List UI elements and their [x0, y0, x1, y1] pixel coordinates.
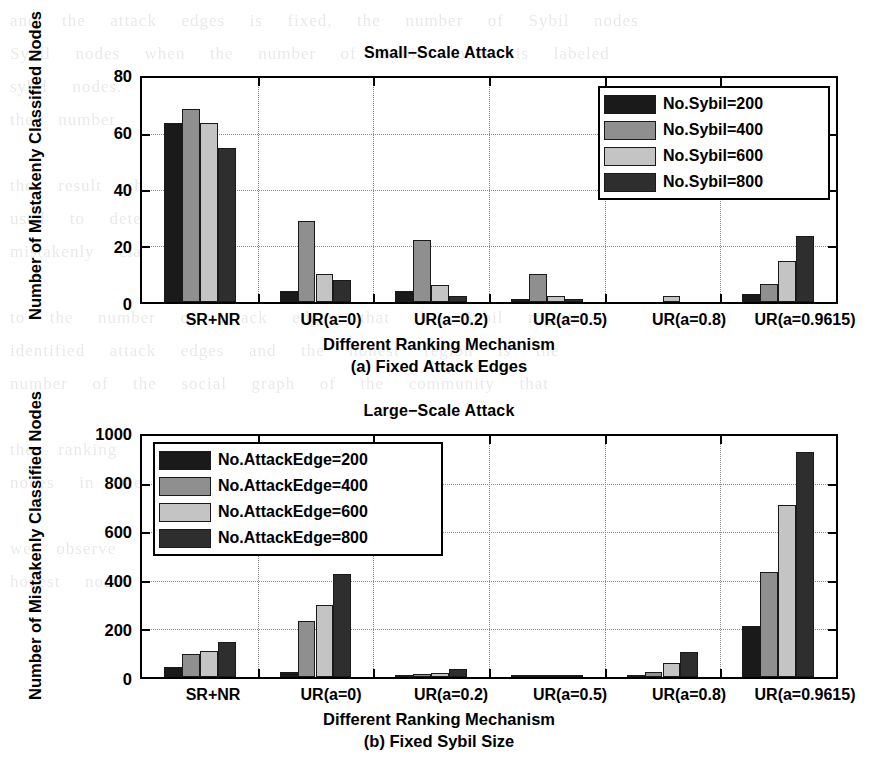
legend-a: No.Sybil=200 No.Sybil=400 No.Sybil=600 N…	[598, 86, 830, 200]
y-tick-mark-left-40	[142, 190, 150, 192]
legend-item-b-0[interactable]: No.AttackEdge=200	[159, 447, 436, 473]
x-tick-mark-top-4	[605, 436, 607, 444]
y-tick-label-b-200: 200	[54, 621, 132, 640]
x-tick-mark-bottom-1	[258, 669, 260, 677]
bar-plot-b-4-3	[680, 652, 698, 677]
bar-plot-b-2-2	[431, 673, 449, 677]
y-tick-mark-right-600	[828, 532, 836, 534]
bar-plot-a-3-3	[565, 299, 583, 302]
x-tick-mark-bottom-3	[489, 294, 491, 302]
bar-plot-b-5-0	[742, 626, 760, 677]
legend-label-a-3: No.Sybil=800	[663, 173, 763, 191]
x-tick-label-a-4: UR(a=0.8)	[652, 311, 726, 329]
y-tick-label-a-80: 80	[72, 67, 132, 86]
y-tick-mark-right-200	[828, 629, 836, 631]
bar-plot-a-1-0	[280, 291, 298, 302]
x-tick-label-b-3: UR(a=0.5)	[533, 686, 607, 704]
y-tick-label-b-800: 800	[54, 474, 132, 493]
y-tick-mark-right-20	[828, 246, 836, 248]
y-tick-label-b-400: 400	[54, 572, 132, 591]
legend-item-b-1[interactable]: No.AttackEdge=400	[159, 473, 436, 499]
x-tick-mark-bottom-1	[258, 294, 260, 302]
legend-label-b-2: No.AttackEdge=600	[218, 503, 368, 521]
bar-plot-a-2-1	[413, 240, 431, 302]
x-tick-label-b-1: UR(a=0)	[301, 686, 362, 704]
legend-item-b-3[interactable]: No.AttackEdge=800	[159, 525, 436, 551]
caption-a: (a) Fixed Attack Edges	[0, 357, 878, 376]
legend-swatch-b-3	[159, 529, 211, 548]
x-tick-mark-top-3	[489, 436, 491, 444]
chart-panel-large-scale-attack: Large−Scale Attack Number of Mistakenly …	[0, 380, 878, 761]
legend-swatch-a-2	[604, 147, 656, 166]
x-tick-mark-top-5	[720, 436, 722, 444]
x-tick-mark-bottom-4	[605, 294, 607, 302]
y-tick-mark-left-400	[142, 581, 150, 583]
bar-plot-b-0-3	[218, 642, 236, 677]
y-tick-label-a-60: 60	[72, 124, 132, 143]
y-tick-mark-left-60	[142, 134, 150, 136]
bar-plot-b-1-3	[333, 574, 351, 677]
legend-item-a-0[interactable]: No.Sybil=200	[604, 91, 823, 117]
legend-swatch-b-2	[159, 503, 211, 522]
legend-label-a-1: No.Sybil=400	[663, 121, 763, 139]
x-tick-mark-top-5	[720, 78, 722, 86]
y-tick-label-b-0: 0	[54, 670, 132, 689]
bar-plot-a-3-2	[547, 296, 565, 302]
bar-plot-a-0-2	[200, 123, 218, 302]
bar-plot-b-4-0	[627, 675, 645, 677]
bar-plot-a-5-3	[796, 236, 814, 302]
x-tick-mark-bottom-4	[605, 669, 607, 677]
x-tick-label-a-0: SR+NR	[186, 311, 241, 329]
x-tick-mark-top-4	[605, 78, 607, 86]
legend-item-a-3[interactable]: No.Sybil=800	[604, 169, 823, 195]
bar-plot-a-4-2	[663, 296, 681, 302]
legend-item-a-2[interactable]: No.Sybil=600	[604, 143, 823, 169]
bar-plot-b-1-2	[316, 605, 334, 677]
bar-plot-b-3-0	[511, 675, 529, 677]
legend-b: No.AttackEdge=200 No.AttackEdge=400 No.A…	[153, 442, 443, 556]
x-tick-label-b-2: UR(a=0.2)	[414, 686, 488, 704]
legend-item-b-2[interactable]: No.AttackEdge=600	[159, 499, 436, 525]
legend-swatch-a-0	[604, 95, 656, 114]
gridline-x-2	[373, 78, 374, 302]
caption-b: (b) Fixed Sybil Size	[0, 732, 878, 751]
chart-title-b: Large−Scale Attack	[0, 402, 878, 420]
gridline-x-4	[605, 436, 606, 677]
x-axis-label-b: Different Ranking Mechanism	[0, 710, 878, 729]
x-tick-label-b-0: SR+NR	[186, 686, 241, 704]
x-tick-mark-bottom-5	[720, 294, 722, 302]
legend-item-a-1[interactable]: No.Sybil=400	[604, 117, 823, 143]
gridline-x-3	[489, 78, 490, 302]
x-tick-mark-top-3	[489, 78, 491, 86]
bar-plot-a-0-0	[164, 123, 182, 302]
x-tick-label-a-2: UR(a=0.2)	[414, 311, 488, 329]
gridline-x-3	[489, 436, 490, 677]
legend-swatch-b-1	[159, 477, 211, 496]
y-tick-mark-left-800	[142, 484, 150, 486]
gridline-x-5	[720, 436, 721, 677]
x-tick-label-a-1: UR(a=0)	[301, 311, 362, 329]
chart-panel-small-scale-attack: Small−Scale Attack Number of Mistakenly …	[0, 0, 878, 381]
bar-plot-b-3-1	[529, 675, 547, 677]
x-tick-label-b-5: UR(a=0.9615)	[755, 686, 856, 704]
bar-plot-b-4-1	[645, 672, 663, 677]
y-tick-mark-right-400	[828, 581, 836, 583]
bar-plot-a-0-1	[182, 109, 200, 302]
y-tick-mark-right-800	[828, 484, 836, 486]
bar-plot-a-2-2	[431, 285, 449, 302]
figure-container: Small−Scale Attack Number of Mistakenly …	[0, 0, 878, 761]
bar-plot-a-3-0	[511, 299, 529, 302]
x-tick-mark-bottom-2	[373, 294, 375, 302]
y-tick-label-a-40: 40	[72, 181, 132, 200]
legend-label-a-2: No.Sybil=600	[663, 147, 763, 165]
bar-plot-b-2-0	[395, 675, 413, 677]
y-tick-label-b-600: 600	[54, 523, 132, 542]
bar-plot-a-0-3	[218, 148, 236, 302]
y-axis-label-b: Number of Mistakenly Classified Nodes	[26, 391, 45, 700]
x-tick-mark-bottom-3	[489, 669, 491, 677]
bar-plot-a-1-3	[333, 280, 351, 302]
y-tick-label-b-1000: 1000	[54, 425, 132, 444]
bar-plot-a-3-1	[529, 274, 547, 302]
legend-label-b-1: No.AttackEdge=400	[218, 477, 368, 495]
legend-swatch-a-3	[604, 173, 656, 192]
